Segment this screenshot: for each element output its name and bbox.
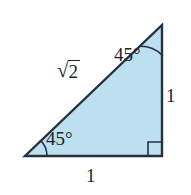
triangle-figure: 45° 45° 1 1 √2 (0, 0, 191, 195)
side-label-bottom: 1 (86, 166, 96, 185)
angle-label-top: 45° (114, 45, 141, 64)
radical-expression: √2 (57, 60, 80, 81)
triangle-diagram-svg (0, 0, 191, 195)
side-label-hypotenuse: √2 (57, 60, 80, 81)
side-label-right: 1 (166, 86, 176, 105)
angle-label-bottom-left: 45° (46, 129, 73, 148)
radicand-value: 2 (68, 60, 81, 81)
